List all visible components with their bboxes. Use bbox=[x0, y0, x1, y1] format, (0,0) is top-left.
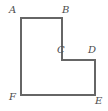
vertex-label-d: D bbox=[88, 45, 96, 55]
vertex-label-f: F bbox=[9, 92, 16, 102]
vertex-label-a: A bbox=[9, 5, 16, 15]
vertex-label-c: C bbox=[57, 45, 65, 55]
geometry-figure: A B C D E F bbox=[0, 0, 108, 111]
vertex-label-b: B bbox=[62, 5, 69, 15]
polygon-outline bbox=[21, 18, 95, 95]
vertex-label-e: E bbox=[95, 96, 102, 106]
l-shape-polygon bbox=[0, 0, 108, 111]
